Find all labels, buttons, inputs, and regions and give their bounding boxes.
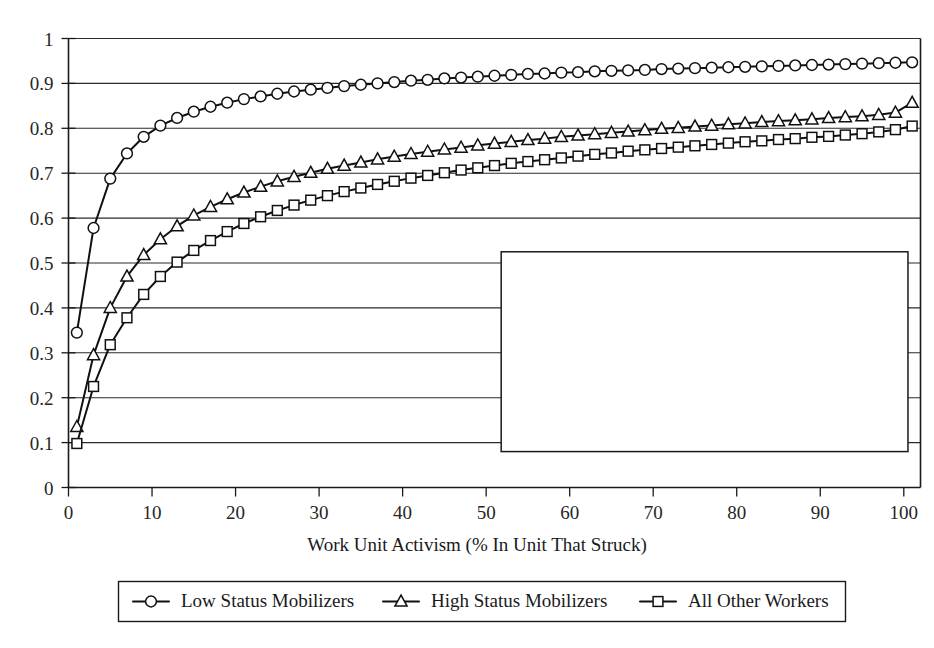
- marker-square: [206, 236, 216, 246]
- marker-circle: [907, 57, 918, 68]
- marker-square: [891, 125, 901, 135]
- marker-circle: [172, 113, 183, 124]
- marker-circle: [155, 120, 166, 131]
- legend-label: High Status Mobilizers: [431, 590, 607, 611]
- marker-circle: [71, 327, 82, 338]
- marker-circle: [673, 63, 684, 74]
- marker-square: [339, 187, 349, 197]
- marker-square: [790, 134, 800, 144]
- marker-circle: [823, 59, 834, 70]
- marker-circle: [756, 61, 767, 72]
- marker-square: [406, 173, 416, 183]
- marker-triangle: [104, 302, 116, 313]
- marker-circle: [272, 88, 283, 99]
- marker-triangle: [889, 106, 901, 117]
- x-tick-label: 40: [393, 502, 412, 523]
- marker-triangle: [154, 233, 166, 244]
- marker-circle: [506, 69, 517, 80]
- marker-square: [640, 145, 650, 155]
- marker-circle: [88, 223, 99, 234]
- marker-circle: [556, 67, 567, 78]
- blank-overlay-rectangle: [501, 252, 908, 452]
- marker-circle: [573, 67, 584, 78]
- x-axis-title: Work Unit Activism (% In Unit That Struc…: [307, 534, 647, 556]
- y-tick-label: 0.6: [30, 208, 54, 229]
- marker-circle: [539, 68, 550, 79]
- y-tick-label: 0.4: [30, 298, 54, 319]
- marker-square: [573, 151, 583, 161]
- marker-circle: [422, 74, 433, 85]
- marker-square: [155, 272, 165, 282]
- y-tick-label: 0.1: [30, 433, 54, 454]
- marker-square: [289, 200, 299, 210]
- marker-square: [323, 191, 333, 201]
- x-tick-label: 0: [64, 502, 74, 523]
- legend-label: Low Status Mobilizers: [181, 590, 354, 611]
- marker-circle: [222, 97, 233, 108]
- marker-square: [189, 246, 199, 256]
- marker-circle: [589, 66, 600, 77]
- marker-square: [239, 219, 249, 229]
- marker-circle: [489, 70, 500, 81]
- marker-circle: [623, 65, 634, 76]
- x-tick-label: 10: [143, 502, 162, 523]
- marker-square: [857, 129, 867, 139]
- marker-triangle: [171, 220, 183, 231]
- marker-square: [72, 439, 82, 449]
- marker-circle: [523, 69, 534, 80]
- marker-square: [807, 132, 817, 142]
- marker-circle: [690, 63, 701, 74]
- marker-square: [105, 340, 115, 350]
- marker-square: [523, 157, 533, 167]
- marker-circle: [138, 131, 149, 142]
- line-chart: 00.10.20.30.40.50.60.70.80.91 0102030405…: [0, 0, 934, 648]
- marker-square: [89, 382, 99, 392]
- x-tick-label: 90: [811, 502, 830, 523]
- legend-entries-group: Low Status MobilizersHigh Status Mobiliz…: [133, 590, 829, 611]
- marker-circle: [606, 65, 617, 76]
- marker-square: [122, 313, 132, 323]
- marker-circle: [289, 86, 300, 97]
- marker-square: [506, 158, 516, 168]
- x-tick-label: 20: [226, 502, 245, 523]
- y-tick-label: 0.8: [30, 118, 54, 139]
- marker-square: [389, 176, 399, 186]
- marker-square: [840, 130, 850, 140]
- x-tick-label: 80: [727, 502, 746, 523]
- marker-circle: [740, 61, 751, 72]
- marker-circle: [239, 94, 250, 105]
- marker-circle: [146, 596, 157, 607]
- marker-circle: [656, 64, 667, 75]
- y-tick-label: 0.9: [30, 73, 54, 94]
- marker-square: [657, 144, 667, 154]
- marker-square: [540, 155, 550, 165]
- marker-circle: [873, 58, 884, 69]
- marker-circle: [840, 59, 851, 70]
- marker-square: [707, 140, 717, 150]
- marker-square: [456, 165, 466, 175]
- x-tick-label: 30: [310, 502, 329, 523]
- marker-circle: [723, 62, 734, 73]
- marker-square: [556, 153, 566, 163]
- marker-square: [690, 141, 700, 151]
- chart-figure: 00.10.20.30.40.50.60.70.80.91 0102030405…: [0, 0, 934, 648]
- marker-square: [723, 138, 733, 148]
- marker-circle: [105, 173, 116, 184]
- legend-label: All Other Workers: [688, 590, 829, 611]
- marker-circle: [389, 77, 400, 88]
- x-tick-label: 50: [477, 502, 496, 523]
- y-tick-label: 0.3: [30, 343, 54, 364]
- marker-square: [473, 163, 483, 173]
- marker-circle: [472, 71, 483, 82]
- y-tick-label: 0.7: [30, 163, 54, 184]
- marker-circle: [355, 79, 366, 90]
- marker-circle: [706, 62, 717, 73]
- marker-square: [907, 121, 917, 131]
- marker-circle: [773, 60, 784, 71]
- marker-square: [740, 137, 750, 147]
- marker-square: [757, 136, 767, 146]
- marker-triangle: [87, 349, 99, 360]
- marker-square: [590, 149, 600, 159]
- marker-square: [306, 195, 316, 205]
- marker-circle: [456, 72, 467, 83]
